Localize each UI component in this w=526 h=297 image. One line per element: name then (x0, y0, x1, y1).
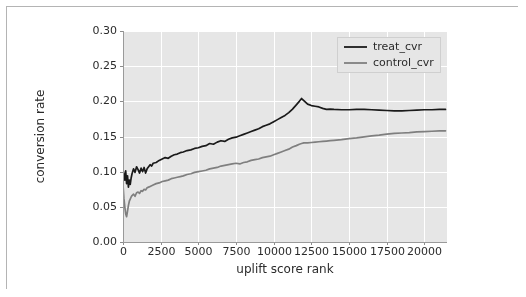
figure-frame: uplift score rank conversion rate treat_… (6, 6, 518, 289)
uplift-conversion-rate-chart (7, 7, 519, 290)
